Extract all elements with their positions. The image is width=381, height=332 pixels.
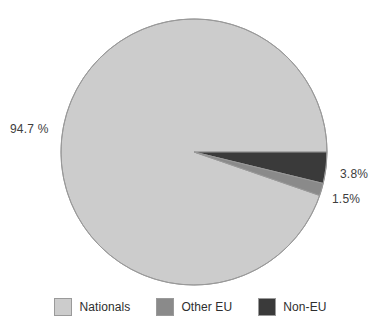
data-label-non-eu: 3.8% [340,167,368,181]
data-label-other-eu: 1.5% [332,192,360,206]
pie-chart-svg [0,0,381,296]
chart-plot-area: 94.7 % 3.8% 1.5% [0,0,381,296]
chart-legend: Nationals Other EU Non-EU [0,298,381,332]
legend-swatch-other-eu [156,298,174,316]
legend-label-non-eu: Non-EU [283,300,326,314]
data-label-nationals: 94.7 % [10,122,49,136]
legend-item-nationals[interactable]: Nationals [54,298,130,316]
legend-label-nationals: Nationals [79,300,130,314]
legend-item-non-eu[interactable]: Non-EU [258,298,326,316]
legend-label-other-eu: Other EU [181,300,232,314]
legend-swatch-non-eu [258,298,276,316]
legend-item-other-eu[interactable]: Other EU [156,298,232,316]
pie-chart-figure: 94.7 % 3.8% 1.5% Nationals Other EU Non-… [0,0,381,332]
legend-swatch-nationals [54,298,72,316]
